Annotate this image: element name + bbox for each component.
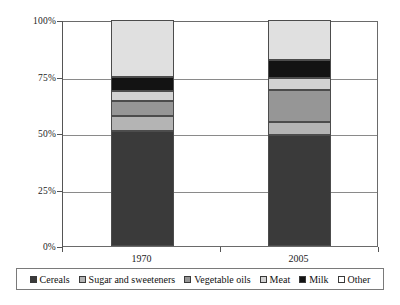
bar-segment-sugar-and-sweeteners[interactable] xyxy=(268,122,331,136)
legend-label: Sugar and sweeteners xyxy=(89,274,176,285)
legend-swatch-icon xyxy=(79,276,86,283)
legend-item-sugar-and-sweeteners[interactable]: Sugar and sweeteners xyxy=(79,274,176,285)
bar-segment-milk[interactable] xyxy=(268,60,331,78)
legend-item-other[interactable]: Other xyxy=(338,274,371,285)
bar-segment-meat[interactable] xyxy=(268,78,331,90)
y-axis-tick-label: 75% xyxy=(10,73,56,83)
x-axis-tick-mark xyxy=(220,247,221,252)
legend-item-milk[interactable]: Milk xyxy=(299,274,328,285)
y-axis-tick-label: 100% xyxy=(10,16,56,26)
x-axis-tick-mark xyxy=(62,247,63,252)
y-axis-tick-label: 50% xyxy=(10,129,56,139)
bar-segment-cereals[interactable] xyxy=(268,135,331,246)
bar-segment-other[interactable] xyxy=(111,20,174,77)
bar-segment-other[interactable] xyxy=(268,20,331,60)
bar-segment-vegetable-oils[interactable] xyxy=(111,101,174,116)
stacked-bar-chart-figure: 100%75%50%25%0% CerealsSugar and sweeten… xyxy=(0,0,400,305)
y-axis-tick-label: 0% xyxy=(10,242,56,252)
chart-legend: CerealsSugar and sweetenersVegetable oil… xyxy=(16,268,384,290)
legend-item-meat[interactable]: Meat xyxy=(260,274,291,285)
legend-label: Vegetable oils xyxy=(194,274,250,285)
legend-label: Cereals xyxy=(40,274,70,285)
bar-1970[interactable] xyxy=(111,20,174,246)
y-axis-tick-mark xyxy=(57,134,62,135)
legend-item-vegetable-oils[interactable]: Vegetable oils xyxy=(184,274,250,285)
y-axis-line xyxy=(62,21,63,247)
plot-area xyxy=(62,21,378,247)
legend-item-cereals[interactable]: Cereals xyxy=(30,274,70,285)
y-axis-tick-mark xyxy=(57,21,62,22)
y-axis-tick-mark xyxy=(57,78,62,79)
legend-swatch-icon xyxy=(299,276,306,283)
y-axis-tick-label: 25% xyxy=(10,186,56,196)
legend-swatch-icon xyxy=(30,276,37,283)
bar-segment-meat[interactable] xyxy=(111,91,174,101)
bar-2005[interactable] xyxy=(268,20,331,246)
legend-label: Milk xyxy=(309,274,328,285)
legend-swatch-icon xyxy=(184,276,191,283)
legend-label: Meat xyxy=(270,274,291,285)
y-axis-tick-mark xyxy=(57,191,62,192)
bar-segment-vegetable-oils[interactable] xyxy=(268,90,331,122)
bar-segment-milk[interactable] xyxy=(111,77,174,92)
legend-label: Other xyxy=(348,274,371,285)
x-axis-tick-label: 2005 xyxy=(259,252,339,265)
x-axis-tick-mark xyxy=(378,247,379,252)
bar-segment-cereals[interactable] xyxy=(111,131,174,246)
x-axis-tick-label: 1970 xyxy=(102,252,182,265)
legend-swatch-icon xyxy=(260,276,267,283)
legend-swatch-icon xyxy=(338,276,345,283)
y-axis-labels: 100%75%50%25%0% xyxy=(0,0,56,305)
bar-segment-sugar-and-sweeteners[interactable] xyxy=(111,116,174,131)
